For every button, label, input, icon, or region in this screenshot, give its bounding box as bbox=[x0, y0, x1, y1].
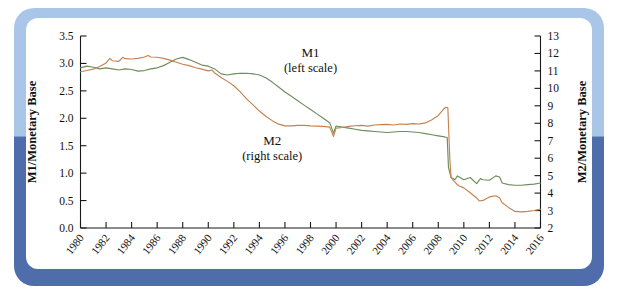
x-tick-label: 1980 bbox=[63, 231, 86, 256]
x-tick-label: 2002 bbox=[344, 232, 367, 257]
right-axis-title: M2/Monetary Base bbox=[575, 80, 589, 183]
m1-label-scale: (left scale) bbox=[284, 61, 337, 75]
x-tick-label: 1994 bbox=[242, 231, 265, 256]
right-tick-label: 4 bbox=[548, 187, 554, 199]
right-tick-label: 8 bbox=[548, 117, 554, 129]
left-tick-label: 1.0 bbox=[59, 167, 74, 179]
x-tick-label: 2004 bbox=[370, 231, 393, 256]
right-tick-label: 3 bbox=[548, 205, 554, 217]
right-tick-label: 7 bbox=[548, 135, 554, 147]
annotation-group: M1(left scale)M2(right scale) bbox=[242, 45, 337, 163]
left-tick-label: 3.5 bbox=[59, 30, 74, 42]
right-tick-label: 6 bbox=[548, 152, 554, 164]
m2-label-scale: (right scale) bbox=[242, 149, 302, 163]
x-tick-label: 2010 bbox=[446, 231, 469, 256]
right-tick-label: 5 bbox=[548, 170, 554, 182]
right-tick-label: 2 bbox=[548, 222, 554, 234]
m1-label-title: M1 bbox=[301, 45, 319, 60]
x-tick-label: 2008 bbox=[421, 231, 444, 256]
x-tick-label: 1982 bbox=[89, 232, 112, 257]
left-tick-label: 0.5 bbox=[59, 195, 74, 207]
right-tick-label: 10 bbox=[548, 82, 560, 94]
series-line-m2 bbox=[81, 56, 541, 212]
x-tick-label: 2006 bbox=[395, 231, 418, 256]
left-axis-title: M1/Monetary Base bbox=[25, 80, 39, 183]
x-tick-label: 1986 bbox=[140, 231, 163, 256]
left-tick-label: 2.0 bbox=[59, 112, 74, 124]
left-tick-label: 1.5 bbox=[59, 140, 74, 152]
left-tick-label: 0.0 bbox=[59, 222, 74, 234]
right-tick-label: 11 bbox=[548, 65, 559, 77]
x-tick-label: 2012 bbox=[472, 232, 495, 257]
left-tick-label: 2.5 bbox=[59, 85, 74, 97]
m2-label-title: M2 bbox=[263, 133, 281, 148]
right-axis-ticks: 2345678910111213 bbox=[535, 30, 560, 234]
x-tick-label: 2000 bbox=[319, 231, 342, 256]
right-tick-label: 12 bbox=[548, 47, 560, 59]
chart-container: 0.00.51.01.52.02.53.03.5 234567891011121… bbox=[0, 0, 617, 300]
x-tick-label: 1988 bbox=[165, 231, 188, 256]
x-tick-label: 1984 bbox=[114, 231, 137, 256]
left-axis-ticks: 0.00.51.01.52.02.53.03.5 bbox=[59, 30, 86, 234]
x-tick-label: 1992 bbox=[216, 232, 239, 257]
series-group bbox=[81, 56, 541, 212]
x-tick-label: 2014 bbox=[498, 231, 521, 256]
series-line-m1 bbox=[81, 57, 541, 185]
x-tick-label: 2016 bbox=[523, 231, 546, 256]
x-axis-ticks: 1980198219841986198819901992199419961998… bbox=[63, 222, 546, 257]
x-tick-label: 1998 bbox=[293, 231, 316, 256]
right-tick-label: 9 bbox=[548, 100, 554, 112]
left-tick-label: 3.0 bbox=[59, 57, 74, 69]
x-tick-label: 1990 bbox=[191, 231, 214, 256]
money-multiplier-line-chart: 0.00.51.01.52.02.53.03.5 234567891011121… bbox=[0, 0, 617, 300]
x-tick-label: 1996 bbox=[268, 231, 291, 256]
right-tick-label: 13 bbox=[548, 30, 560, 42]
